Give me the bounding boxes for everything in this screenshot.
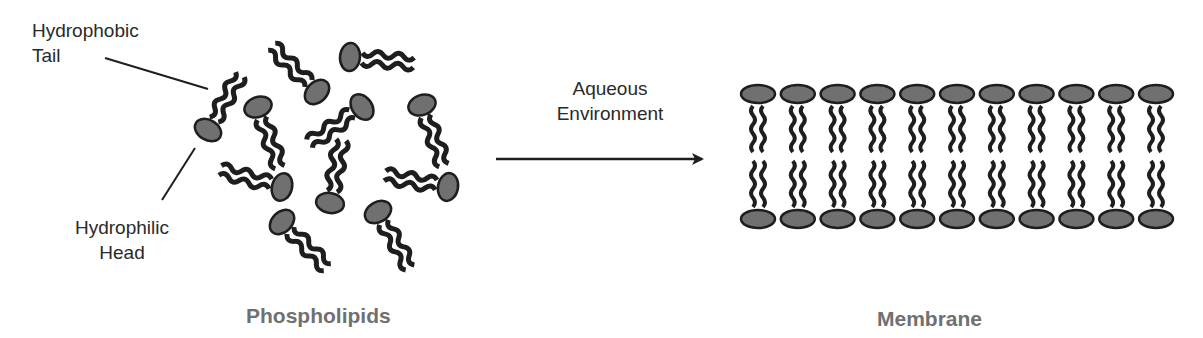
phospholipid [980, 85, 1014, 152]
hydrophobic-tail [1149, 106, 1153, 152]
hydrophobic-tail [1079, 161, 1083, 207]
hydrophobic-tail [960, 106, 964, 152]
hydrophobic-tail [801, 106, 805, 152]
hydrophobic-tail-label: Hydrophobic Tail [32, 18, 139, 68]
hydrophobic-tail [751, 106, 755, 152]
hydrophilic-head [980, 85, 1014, 103]
hydrophobic-tail [273, 41, 314, 82]
hydrophobic-tail [841, 161, 845, 207]
hydrophobic-tail [1030, 106, 1034, 152]
hydrophobic-tail [428, 114, 451, 165]
hydrophilic-head [405, 91, 438, 119]
hydrophilic-head [436, 171, 461, 202]
hydrophobic-tail [801, 161, 805, 207]
head-label-line2: Head [75, 240, 169, 265]
hydrophobic-tail [1000, 161, 1004, 207]
hydrophilic-head [1020, 85, 1054, 103]
hydrophobic-tail [791, 106, 795, 152]
hydrophilic-head [781, 85, 815, 103]
hydrophobic-tail [1040, 161, 1044, 207]
hydrophilic-head [741, 85, 775, 103]
hydrophobic-tail [870, 161, 874, 207]
phospholipid [741, 85, 775, 152]
hydrophobic-tail [910, 161, 914, 207]
hydrophobic-tail [1159, 106, 1163, 152]
phospholipid [361, 196, 422, 274]
hydrophobic-tail [841, 106, 845, 152]
tail-label-line2: Tail [32, 43, 139, 68]
phospholipid [339, 42, 415, 76]
phospholipid [1020, 161, 1054, 228]
phospholipid [383, 162, 461, 202]
phospholipid [262, 37, 334, 109]
hydrophilic-head-label: Hydrophilic Head [75, 215, 169, 265]
phospholipid [860, 161, 894, 228]
phospholipid [1099, 85, 1133, 152]
phospholipid [860, 85, 894, 152]
free-phospholipids [191, 37, 460, 277]
phospholipid [1099, 161, 1133, 228]
phospholipid [1139, 161, 1173, 228]
phospholipid [241, 93, 293, 172]
hydrophobic-tail [1069, 161, 1073, 207]
phospholipid [821, 161, 855, 228]
phospholipid [1139, 85, 1173, 152]
aqueous-environment-label: Aqueous Environment [540, 76, 680, 126]
hydrophobic-tail [1079, 106, 1083, 152]
hydrophobic-tail [292, 225, 333, 266]
hydrophobic-tail [1119, 106, 1123, 152]
hydrophobic-tail [950, 161, 954, 207]
phospholipid [900, 85, 934, 152]
hydrophobic-tail [831, 106, 835, 152]
phospholipid [1059, 161, 1093, 228]
hydrophobic-tail [910, 106, 914, 152]
phospholipid [265, 205, 337, 277]
hydrophilic-head [1099, 85, 1133, 103]
phospholipid [980, 161, 1014, 228]
hydrophilic-head [781, 210, 815, 228]
hydrophobic-tail [791, 161, 795, 207]
hydrophilic-head [1139, 85, 1173, 103]
hydrophobic-tail [362, 50, 414, 61]
hydrophilic-head [339, 42, 361, 72]
hydrophobic-tail [266, 48, 307, 89]
hydrophilic-head [821, 85, 855, 103]
phospholipid [1020, 85, 1054, 152]
hydrophobic-tail [920, 106, 924, 152]
hydrophilic-head [1139, 210, 1173, 228]
hydrophobic-tail [1000, 106, 1004, 152]
hydrophobic-tail [285, 232, 326, 273]
hydrophobic-tail [1119, 161, 1123, 207]
hydrophobic-tail [1149, 161, 1153, 207]
hydrophobic-tail [950, 106, 954, 152]
hydrophobic-tail [920, 161, 924, 207]
hydrophobic-tail [870, 106, 874, 152]
hydrophobic-tail [1030, 161, 1034, 207]
phospholipid [821, 85, 855, 152]
membrane-bilayer [741, 85, 1173, 228]
hydrophilic-head [1099, 210, 1133, 228]
hydrophilic-head [821, 210, 855, 228]
hydrophobic-tail [960, 161, 964, 207]
hydrophilic-head [241, 93, 274, 121]
membrane-caption: Membrane [877, 307, 982, 331]
diagram-art [0, 0, 1203, 338]
hydrophobic-tail [880, 106, 884, 152]
phospholipid [900, 161, 934, 228]
head-label-line1: Hydrophilic [75, 215, 169, 240]
hydrophilic-head [860, 85, 894, 103]
phospholipid [1059, 85, 1093, 152]
hydrophilic-head [940, 210, 974, 228]
phospholipid [314, 138, 354, 216]
hydrophilic-head [1059, 210, 1093, 228]
hydrophobic-tail [1069, 106, 1073, 152]
phospholipid [781, 85, 815, 152]
hydrophilic-head [269, 171, 296, 203]
phospholipid [781, 161, 815, 228]
phospholipid [940, 85, 974, 152]
head-pointer-line [162, 148, 195, 200]
hydrophobic-tail [990, 106, 994, 152]
phospholipid [191, 68, 252, 146]
tail-label-line1: Hydrophobic [32, 18, 139, 43]
hydrophobic-tail [1040, 106, 1044, 152]
